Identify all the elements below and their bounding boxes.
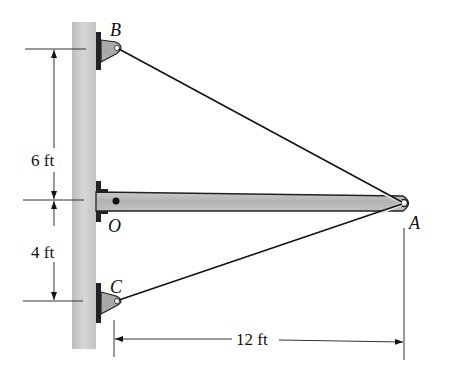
label-point-b: B	[110, 20, 121, 40]
cable-ab	[119, 49, 402, 202]
point-o-marker	[113, 198, 120, 205]
boom-oa	[96, 192, 409, 211]
cable-ac	[119, 204, 402, 300]
vertical-pole	[72, 22, 96, 349]
label-point-a: A	[408, 213, 421, 233]
label-point-o: O	[108, 216, 121, 236]
dimension-label-4ft: 4 ft	[31, 243, 54, 262]
label-point-c: C	[110, 277, 123, 297]
dimension-label-12ft: 12 ft	[236, 330, 268, 349]
mast-boom-diagram: B O A C 6 ft 4 ft 12 ft	[0, 0, 454, 375]
dimension-label-6ft: 6 ft	[31, 151, 54, 170]
